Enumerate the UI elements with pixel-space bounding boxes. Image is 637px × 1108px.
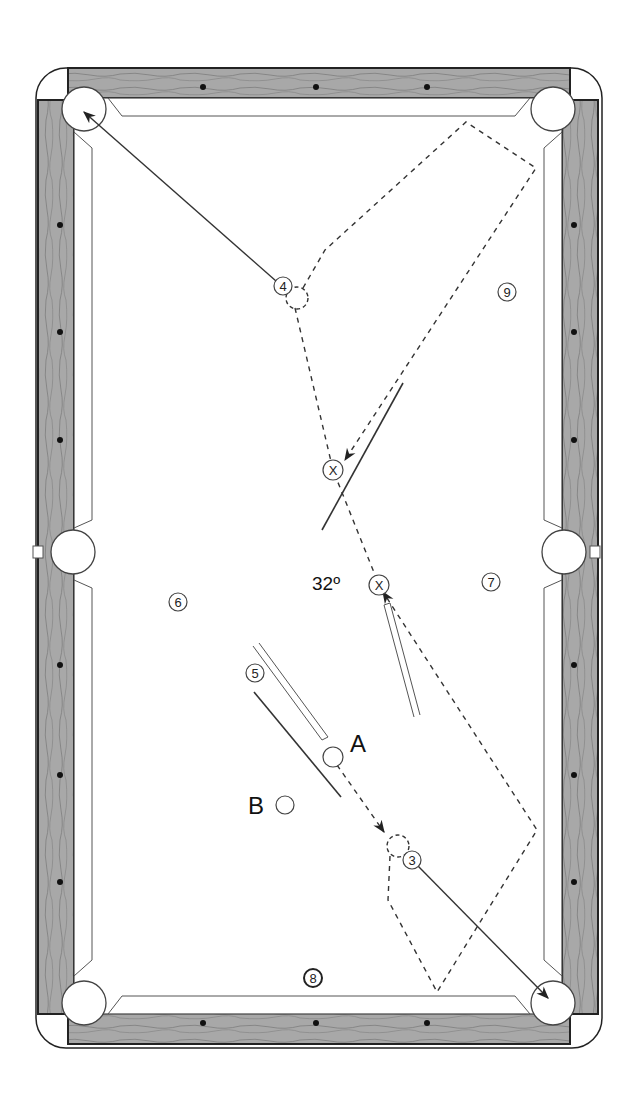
angle-label: 32º: [312, 573, 340, 594]
svg-text:B: B: [248, 792, 264, 819]
pocket-side-right: [542, 530, 586, 574]
ball-9: 9: [498, 283, 516, 301]
svg-text:8: 8: [309, 971, 316, 986]
ball-6: 6: [169, 593, 187, 611]
svg-text:7: 7: [487, 575, 494, 590]
svg-text:X: X: [375, 578, 384, 593]
svg-text:9: 9: [503, 285, 510, 300]
ball-5: 5: [246, 664, 264, 682]
x-marker-1: X: [323, 460, 343, 480]
ball-7: 7: [482, 573, 500, 591]
bottom-rail: [68, 1012, 570, 1044]
pocket-side-left: [51, 530, 95, 574]
svg-text:4: 4: [279, 279, 286, 294]
ball-3: 3: [403, 851, 421, 869]
cloth: [74, 98, 562, 1014]
pocket-top-right: [531, 87, 575, 131]
svg-text:6: 6: [174, 595, 181, 610]
pocket-bottom-left: [62, 981, 106, 1025]
ball-4: 4: [274, 277, 292, 295]
svg-text:3: 3: [408, 853, 415, 868]
pocket-top-left: [62, 87, 106, 131]
ball-8: 8: [304, 969, 322, 987]
svg-text:5: 5: [251, 666, 258, 681]
top-rail: [68, 68, 570, 98]
x-marker-2: X: [369, 575, 389, 595]
pool-table-diagram: A B X X 32º 4 9 6 7 5 3 8: [0, 0, 637, 1108]
svg-text:X: X: [329, 463, 338, 478]
svg-text:A: A: [350, 730, 366, 757]
